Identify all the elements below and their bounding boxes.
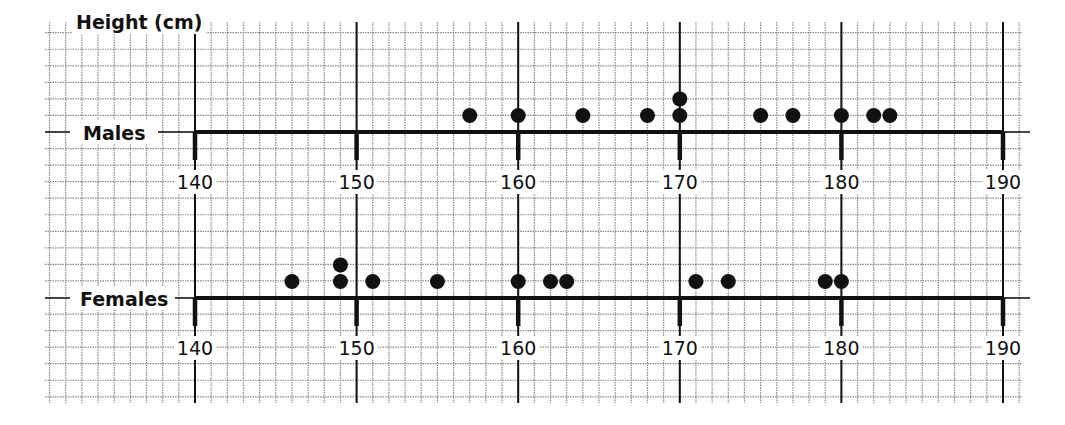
data-dot: [721, 274, 736, 289]
data-dot: [640, 108, 655, 123]
males-dot-plot: 140150160170180190: [45, 91, 1030, 194]
tick-label: 150: [338, 337, 374, 359]
tick-label: 160: [500, 171, 536, 193]
data-dot: [834, 108, 849, 123]
data-dot: [575, 108, 590, 123]
tick-label: 190: [985, 337, 1021, 359]
data-dot: [559, 274, 574, 289]
chart-title: Height (cm): [76, 11, 203, 33]
tick-label: 140: [177, 337, 213, 359]
data-dot: [688, 274, 703, 289]
data-dot: [430, 274, 445, 289]
females-dot-plot: 140150160170180190: [45, 257, 1030, 360]
data-dot: [834, 274, 849, 289]
data-dot: [543, 274, 558, 289]
data-dot: [785, 108, 800, 123]
data-dot: [284, 274, 299, 289]
tick-label: 170: [662, 337, 698, 359]
data-dot: [672, 91, 687, 106]
data-dot: [672, 108, 687, 123]
data-dot: [882, 108, 897, 123]
tick-label: 180: [823, 337, 859, 359]
tick-label: 150: [338, 171, 374, 193]
tick-label: 170: [662, 171, 698, 193]
tick-label: 180: [823, 171, 859, 193]
dot-plot-chart: 140150160170180190 140150160170180190Mal…: [0, 0, 1065, 425]
tick-label: 160: [500, 337, 536, 359]
data-dot: [365, 274, 380, 289]
tick-label: 140: [177, 171, 213, 193]
data-dot: [333, 257, 348, 272]
data-dot: [753, 108, 768, 123]
data-dot: [511, 108, 526, 123]
data-dot: [462, 108, 477, 123]
data-dot: [511, 274, 526, 289]
females-label: Females: [80, 288, 168, 310]
males-label: Males: [83, 122, 145, 144]
data-dot: [818, 274, 833, 289]
data-dot: [333, 274, 348, 289]
data-dot: [866, 108, 881, 123]
tick-label: 190: [985, 171, 1021, 193]
